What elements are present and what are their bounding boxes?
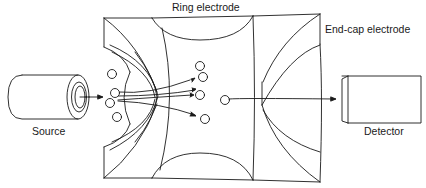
source-arrow [80,95,103,99]
entering-ions [106,70,122,122]
source-label: Source [32,126,65,137]
detector-box [342,76,421,123]
detector-label: Detector [364,126,404,137]
source-cylinder [8,75,89,119]
ion-trajectories [117,78,196,116]
trapped-ions [196,62,210,124]
ejected-ion [221,96,337,105]
end-cap-electrode-label: End-cap electrode [325,24,410,35]
ring-electrode-label: Ring electrode [172,2,240,13]
ion-trap-diagram: Ring electrode End-cap electrode Source … [0,0,426,188]
exit-end-cap-electrode [253,14,322,182]
